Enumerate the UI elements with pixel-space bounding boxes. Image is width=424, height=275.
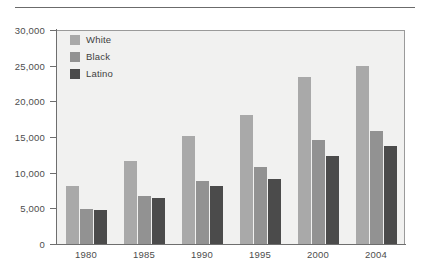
- bar-black-1995: [254, 167, 267, 244]
- x-axis-tick-label: 2004: [365, 249, 387, 260]
- y-axis-tick-label: 5,000: [20, 203, 45, 214]
- y-axis-tick-label: 25,000: [15, 60, 45, 71]
- bar-group: [240, 30, 281, 244]
- y-axis-tick: [50, 137, 56, 138]
- bar-chart: 05,00010,00015,00020,00025,00030,000 198…: [0, 0, 424, 275]
- legend-item-latino: Latino: [70, 68, 113, 80]
- legend-label: Latino: [86, 69, 113, 79]
- bar-latino-2000: [326, 156, 339, 244]
- legend-label: Black: [86, 52, 110, 62]
- bar-latino-1990: [210, 186, 223, 244]
- bar-group: [182, 30, 223, 244]
- bar-group: [356, 30, 397, 244]
- y-axis-tick-label: 15,000: [15, 132, 45, 143]
- bar-black-1990: [196, 181, 209, 244]
- bar-white-1980: [66, 186, 79, 244]
- y-axis-tick: [50, 244, 56, 245]
- bar-white-1990: [182, 136, 195, 244]
- y-axis-tick: [50, 208, 56, 209]
- legend-swatch-icon: [70, 69, 80, 79]
- bar-white-1985: [124, 161, 137, 244]
- bar-latino-1995: [268, 179, 281, 244]
- legend-swatch-icon: [70, 52, 80, 62]
- x-axis-tick-label: 1995: [249, 249, 271, 260]
- bar-white-2000: [298, 77, 311, 244]
- y-axis-tick-label: 20,000: [15, 96, 45, 107]
- y-axis-tick: [50, 173, 56, 174]
- x-axis-tick-label: 1985: [133, 249, 155, 260]
- bar-white-1995: [240, 115, 253, 244]
- bar-latino-1985: [152, 198, 165, 244]
- y-axis-tick-label: 10,000: [15, 167, 45, 178]
- legend-item-black: Black: [70, 51, 113, 63]
- y-axis-tick-label: 0: [40, 239, 45, 250]
- bar-black-2004: [370, 131, 383, 244]
- bar-latino-1980: [94, 210, 107, 244]
- bar-black-2000: [312, 140, 325, 244]
- bar-white-2004: [356, 66, 369, 244]
- y-axis-line: [56, 29, 57, 245]
- x-axis-tick-label: 1990: [191, 249, 213, 260]
- x-axis-tick-label: 1980: [75, 249, 97, 260]
- legend-item-white: White: [70, 34, 113, 46]
- x-axis-line: [56, 244, 406, 245]
- chart-legend: WhiteBlackLatino: [70, 34, 113, 85]
- y-axis-tick-label: 30,000: [15, 25, 45, 36]
- bar-group: [124, 30, 165, 244]
- bar-black-1980: [80, 209, 93, 244]
- legend-swatch-icon: [70, 35, 80, 45]
- bar-black-1985: [138, 196, 151, 245]
- y-axis-tick: [50, 101, 56, 102]
- legend-label: White: [86, 35, 111, 45]
- x-axis-tick-label: 2000: [307, 249, 329, 260]
- bar-group: [298, 30, 339, 244]
- bar-latino-2004: [384, 146, 397, 244]
- y-axis-tick: [50, 66, 56, 67]
- y-axis-tick: [50, 30, 56, 31]
